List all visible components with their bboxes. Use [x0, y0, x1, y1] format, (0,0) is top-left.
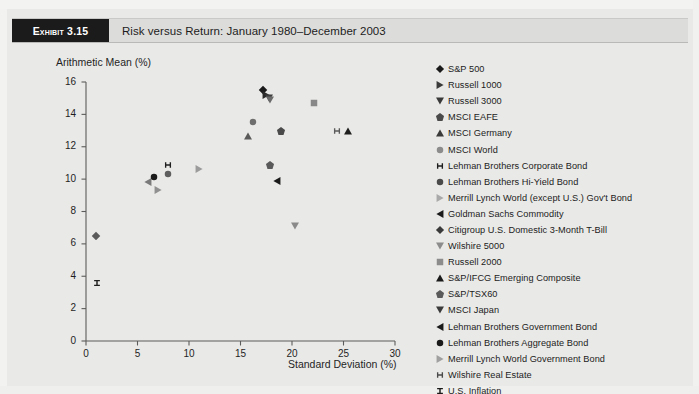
- triangle-up-icon: [432, 271, 448, 285]
- legend-item[interactable]: Wilshire Real Estate: [432, 367, 694, 383]
- legend-item[interactable]: Merrill Lynch World (except U.S.) Gov't …: [432, 190, 694, 206]
- data-point: [93, 279, 101, 287]
- legend-item-label: Russell 1000: [448, 80, 502, 90]
- data-point: [343, 126, 352, 135]
- legend-item[interactable]: Russell 2000: [432, 254, 694, 270]
- x-tick-label: 10: [178, 348, 200, 359]
- chart-legend: S&P 500Russell 1000Russell 3000MSCI EAFE…: [432, 61, 694, 394]
- legend-item-label: Lehman Brothers Corporate Bond: [448, 161, 587, 171]
- legend-item-label: Wilshire 5000: [448, 241, 504, 251]
- data-point: [164, 170, 173, 179]
- legend-item[interactable]: Russell 1000: [432, 77, 694, 93]
- square-icon: [432, 255, 448, 269]
- legend-item[interactable]: MSCI EAFE: [432, 109, 694, 125]
- pentagon-icon: [432, 287, 448, 301]
- data-point: [333, 127, 341, 135]
- legend-item[interactable]: MSCI Germany: [432, 125, 694, 141]
- x-tick-label: 15: [230, 348, 252, 359]
- legend-item-label: Russell 3000: [448, 96, 502, 106]
- x-tick-label: 20: [281, 348, 303, 359]
- exhibit-page: Exhibit 3.15 Risk versus Return: January…: [0, 0, 699, 394]
- y-tick-label: 4: [54, 270, 76, 281]
- triangle-down-icon: [432, 239, 448, 253]
- pentagon-icon: [432, 110, 448, 124]
- data-point: [154, 186, 163, 195]
- legend-item-label: U.S. Inflation: [448, 386, 501, 394]
- legend-item-label: S&P/IFCG Emerging Composite: [448, 273, 581, 283]
- legend-item[interactable]: S&P 500: [432, 61, 694, 77]
- data-point: [243, 132, 252, 141]
- triangle-right-icon: [432, 191, 448, 205]
- y-tick-label: 8: [54, 205, 76, 216]
- circle-icon: [432, 336, 448, 350]
- data-point: [195, 165, 204, 174]
- data-point: [149, 172, 158, 181]
- legend-item-label: Lehman Brothers Government Bond: [448, 322, 597, 332]
- legend-item-label: MSCI Germany: [448, 128, 512, 138]
- legend-item-label: Merrill Lynch World (except U.S.) Gov't …: [448, 193, 632, 203]
- legend-item[interactable]: S&P/TSX60: [432, 286, 694, 302]
- i-beam-v-icon: [432, 384, 448, 394]
- triangle-down-icon: [432, 94, 448, 108]
- y-tick-label: 6: [54, 237, 76, 248]
- legend-item-label: Lehman Brothers Aggregate Bond: [448, 338, 588, 348]
- legend-item[interactable]: MSCI World: [432, 141, 694, 157]
- y-tick-label: 0: [54, 335, 76, 346]
- triangle-right-icon: [432, 78, 448, 92]
- data-point: [276, 126, 285, 135]
- legend-item[interactable]: Wilshire 5000: [432, 238, 694, 254]
- legend-item-label: MSCI World: [448, 145, 498, 155]
- triangle-left-icon: [432, 207, 448, 221]
- data-point: [92, 231, 102, 241]
- data-point: [272, 176, 281, 185]
- x-tick-label: 0: [75, 348, 97, 359]
- data-point: [266, 161, 275, 170]
- triangle-right-icon: [432, 352, 448, 366]
- legend-item[interactable]: Lehman Brothers Hi-Yield Bond: [432, 174, 694, 190]
- diamond-icon: [432, 62, 448, 76]
- y-tick-label: 16: [54, 76, 76, 87]
- x-tick-label: 25: [333, 348, 355, 359]
- x-tick-label: 30: [384, 348, 406, 359]
- legend-item[interactable]: Merrill Lynch World Government Bond: [432, 351, 694, 367]
- legend-item-label: Lehman Brothers Hi-Yield Bond: [448, 177, 578, 187]
- x-tick-label: 5: [127, 348, 149, 359]
- legend-item[interactable]: Russell 3000: [432, 93, 694, 109]
- legend-item[interactable]: U.S. Inflation: [432, 383, 694, 394]
- y-tick-label: 12: [54, 140, 76, 151]
- legend-item[interactable]: S&P/IFCG Emerging Composite: [432, 270, 694, 286]
- legend-item-label: S&P/TSX60: [448, 289, 497, 299]
- legend-item-label: Citigroup U.S. Domestic 3-Month T-Bill: [448, 225, 607, 235]
- circle-icon: [432, 143, 448, 157]
- y-tick-label: 14: [54, 108, 76, 119]
- legend-item-label: Russell 2000: [448, 257, 502, 267]
- legend-item[interactable]: Lehman Brothers Government Bond: [432, 319, 694, 335]
- y-tick-label: 10: [54, 173, 76, 184]
- legend-item[interactable]: Citigroup U.S. Domestic 3-Month T-Bill: [432, 222, 694, 238]
- data-point: [309, 99, 318, 108]
- legend-item[interactable]: Goldman Sachs Commodity: [432, 206, 694, 222]
- diamond-icon: [432, 223, 448, 237]
- circle-icon: [432, 175, 448, 189]
- triangle-down-icon: [432, 303, 448, 317]
- triangle-up-icon: [432, 126, 448, 140]
- legend-item[interactable]: Lehman Brothers Aggregate Bond: [432, 335, 694, 351]
- data-point: [164, 161, 172, 169]
- data-point: [248, 118, 257, 127]
- data-point: [291, 222, 300, 231]
- y-tick-label: 2: [54, 302, 76, 313]
- legend-item-label: Merrill Lynch World Government Bond: [448, 354, 605, 364]
- i-beam-h-icon: [432, 368, 448, 382]
- legend-item-label: MSCI Japan: [448, 305, 499, 315]
- legend-item-label: S&P 500: [448, 64, 484, 74]
- legend-item-label: Wilshire Real Estate: [448, 370, 532, 380]
- legend-item[interactable]: MSCI Japan: [432, 302, 694, 318]
- legend-item-label: Goldman Sachs Commodity: [448, 209, 564, 219]
- data-point: [266, 95, 275, 104]
- legend-item[interactable]: Lehman Brothers Corporate Bond: [432, 158, 694, 174]
- legend-item-label: MSCI EAFE: [448, 112, 498, 122]
- triangle-left-icon: [432, 320, 448, 334]
- i-beam-h-icon: [432, 159, 448, 173]
